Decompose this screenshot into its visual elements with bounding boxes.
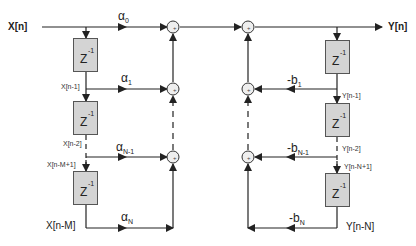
delay-box-y-1: Z-1 bbox=[325, 40, 350, 74]
tap-label-y: Y[n-2] bbox=[342, 145, 361, 152]
diagram-lines: + + + + + + bbox=[0, 0, 416, 246]
coef-alpha-n: αN bbox=[121, 211, 133, 225]
coef-alpha-1: α1 bbox=[121, 72, 132, 86]
tap-label-y: Y[n-N+1] bbox=[344, 163, 372, 170]
z-symbol: Z bbox=[80, 52, 87, 66]
z-exponent: -1 bbox=[340, 112, 346, 119]
tap-label-y: Y[n-N] bbox=[346, 222, 374, 232]
tap-label-x: X[n-1] bbox=[61, 83, 80, 90]
delay-box-x-3: Z-1 bbox=[73, 171, 98, 205]
tap-label-x: X[n-2] bbox=[63, 140, 82, 147]
coef-alpha-0: α0 bbox=[118, 10, 129, 24]
plus-sign: + bbox=[247, 87, 251, 93]
coef-b-1: -b1 bbox=[287, 74, 302, 88]
tap-label-x: X[n-M+1] bbox=[47, 161, 76, 168]
z-exponent: -1 bbox=[88, 180, 94, 187]
z-symbol: Z bbox=[332, 187, 339, 201]
z-exponent: -1 bbox=[88, 47, 94, 54]
z-symbol: Z bbox=[80, 185, 87, 199]
plus-sign: + bbox=[247, 155, 251, 161]
coef-b-n: -bN bbox=[289, 212, 305, 226]
z-symbol: Z bbox=[332, 117, 339, 131]
output-label: Y[n] bbox=[388, 22, 407, 32]
tap-label-y: Y[n-1] bbox=[342, 92, 361, 99]
z-exponent: -1 bbox=[340, 182, 346, 189]
delay-box-x-1: Z-1 bbox=[73, 38, 98, 72]
z-exponent: -1 bbox=[88, 110, 94, 117]
plus-sign: + bbox=[173, 155, 177, 161]
coef-b-n-1: -bN-1 bbox=[287, 142, 309, 156]
plus-sign: + bbox=[173, 25, 177, 31]
z-exponent: -1 bbox=[340, 49, 346, 56]
plus-sign: + bbox=[247, 25, 251, 31]
delay-box-y-3: Z-1 bbox=[325, 173, 350, 207]
delay-box-x-2: Z-1 bbox=[73, 101, 98, 135]
tap-label-x: X[n-M] bbox=[46, 221, 75, 231]
plus-sign: + bbox=[173, 87, 177, 93]
z-symbol: Z bbox=[80, 115, 87, 129]
input-label: X[n] bbox=[8, 22, 27, 32]
z-symbol: Z bbox=[332, 54, 339, 68]
delay-box-y-2: Z-1 bbox=[325, 103, 350, 137]
coef-alpha-n-1: αN-1 bbox=[116, 141, 134, 155]
